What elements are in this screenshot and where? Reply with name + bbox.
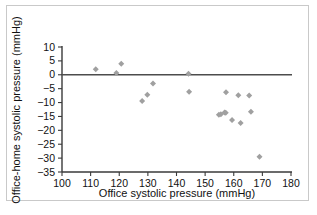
x-tick-label: 100: [53, 177, 71, 189]
data-point: [139, 98, 145, 104]
y-tick-label: 5: [49, 54, 55, 66]
data-point: [235, 92, 241, 98]
data-point: [246, 93, 252, 99]
y-tick-label: −20: [37, 124, 55, 136]
y-tick-label: −15: [37, 110, 55, 122]
data-point: [93, 66, 99, 72]
data-point: [257, 154, 263, 160]
y-tick-label: −35: [37, 166, 55, 178]
scatter-plot: 1050−5−10−15−20−25−30−35 100110120130140…: [0, 0, 317, 215]
data-point: [186, 71, 192, 77]
x-tick-label: 170: [254, 177, 272, 189]
y-tick-label: −5: [43, 82, 55, 94]
y-axis: [58, 46, 62, 172]
data-point: [223, 89, 229, 95]
data-point: [238, 120, 244, 126]
y-tick-label: −25: [37, 138, 55, 150]
figure-container: 1050−5−10−15−20−25−30−35 100110120130140…: [0, 0, 317, 215]
data-point: [186, 89, 192, 95]
x-axis: [62, 172, 292, 176]
x-axis-title: Office systolic pressure (mmHg): [99, 187, 255, 199]
data-point: [118, 61, 124, 67]
x-tick-label: 180: [282, 177, 300, 189]
data-point: [248, 109, 254, 115]
y-tick-label: −30: [37, 152, 55, 164]
y-tick-labels: 1050−5−10−15−20−25−30−35: [37, 41, 55, 178]
y-tick-label: −10: [37, 96, 55, 108]
data-point: [144, 92, 150, 98]
x-tick-label: 110: [82, 177, 99, 189]
data-point: [150, 80, 156, 86]
y-tick-label: 0: [49, 68, 55, 80]
data-point: [229, 117, 235, 123]
y-tick-label: 10: [43, 41, 55, 53]
y-axis-title: Office-home systolic pressure (mmHg): [10, 16, 22, 203]
